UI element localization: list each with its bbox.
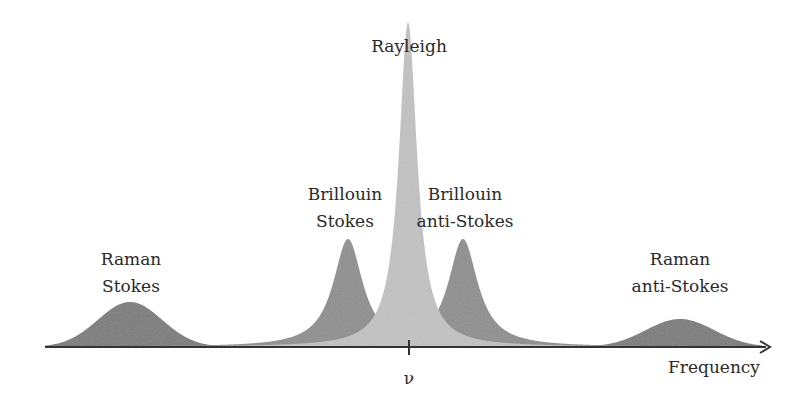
scattering-spectrum-chart: ν Frequency RayleighBrillouinStokesBrill… (0, 0, 807, 402)
center-frequency-label: ν (404, 368, 414, 388)
peak-label: Brillouin (428, 184, 503, 204)
peak-label: Raman (650, 249, 711, 269)
peak-label: Stokes (316, 211, 374, 231)
peak-label: Rayleigh (371, 36, 447, 56)
peak-label: Raman (101, 249, 162, 269)
peak-label: Stokes (102, 276, 160, 296)
spectral-peaks (45, 22, 762, 347)
peak-label: Brillouin (308, 184, 383, 204)
peak-label: anti-Stokes (417, 211, 514, 231)
peak-label: anti-Stokes (632, 276, 729, 296)
peak-rayleigh (45, 22, 762, 347)
x-axis-label: Frequency (668, 357, 760, 377)
